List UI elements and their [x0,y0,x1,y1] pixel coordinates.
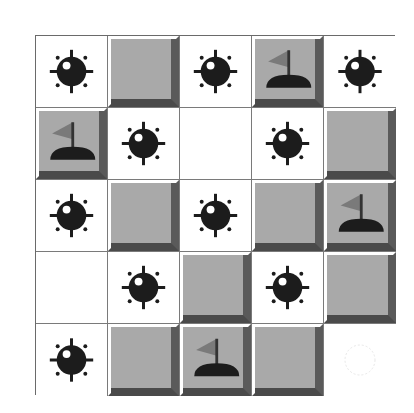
cell-r1-c0-flag[interactable] [36,108,108,180]
mine-icon [108,108,179,179]
cell-r0-c1-covered[interactable] [108,36,180,108]
cell-r1-c1-mine[interactable] [108,108,180,180]
cell-r3-c0-empty[interactable] [36,252,108,324]
mine-icon [36,36,107,107]
cell-r4-c2-flag[interactable] [180,324,252,396]
cell-r1-c4-covered[interactable] [324,108,396,180]
flag-icon [183,327,243,388]
covered-tile[interactable] [111,183,179,251]
flagged-tile[interactable] [255,39,323,107]
flag-icon [39,111,99,171]
cell-r2-c0-mine[interactable] [36,180,108,252]
mine-icon [252,252,323,323]
cell-r1-c2-empty[interactable] [180,108,252,180]
cell-r0-c0-mine[interactable] [36,36,108,108]
cell-r0-c3-flag[interactable] [252,36,324,108]
mine-icon [36,324,107,396]
faint-mine-icon [324,324,396,396]
cell-r4-c1-covered[interactable] [108,324,180,396]
cell-r4-c4-mine-faint[interactable] [324,324,396,396]
flagged-tile[interactable] [39,111,107,179]
cell-r3-c2-covered[interactable] [180,252,252,324]
cell-r0-c4-mine[interactable] [324,36,396,108]
cell-r3-c3-mine[interactable] [252,252,324,324]
covered-tile[interactable] [183,255,251,323]
cell-r2-c4-flag[interactable] [324,180,396,252]
cell-r0-c2-mine[interactable] [180,36,252,108]
flag-icon [255,39,315,99]
cell-r4-c0-mine[interactable] [36,324,108,396]
cell-r3-c1-mine[interactable] [108,252,180,324]
covered-tile[interactable] [255,327,323,396]
mine-icon [252,108,323,179]
cell-r4-c3-covered[interactable] [252,324,324,396]
mine-icon [108,252,179,323]
mine-icon [180,36,251,107]
cell-r2-c2-mine[interactable] [180,180,252,252]
mine-icon [180,180,251,251]
cell-r2-c3-covered[interactable] [252,180,324,252]
covered-tile[interactable] [327,255,396,323]
covered-tile[interactable] [327,111,396,179]
cell-r2-c1-covered[interactable] [108,180,180,252]
covered-tile[interactable] [111,39,179,107]
flag-icon [327,183,388,243]
minesweeper-board [35,35,395,395]
mine-icon [324,36,396,107]
covered-tile[interactable] [111,327,179,396]
covered-tile[interactable] [255,183,323,251]
flagged-tile[interactable] [183,327,251,396]
cell-r3-c4-covered[interactable] [324,252,396,324]
flagged-tile[interactable] [327,183,396,251]
cell-r1-c3-mine[interactable] [252,108,324,180]
mine-icon [36,180,107,251]
